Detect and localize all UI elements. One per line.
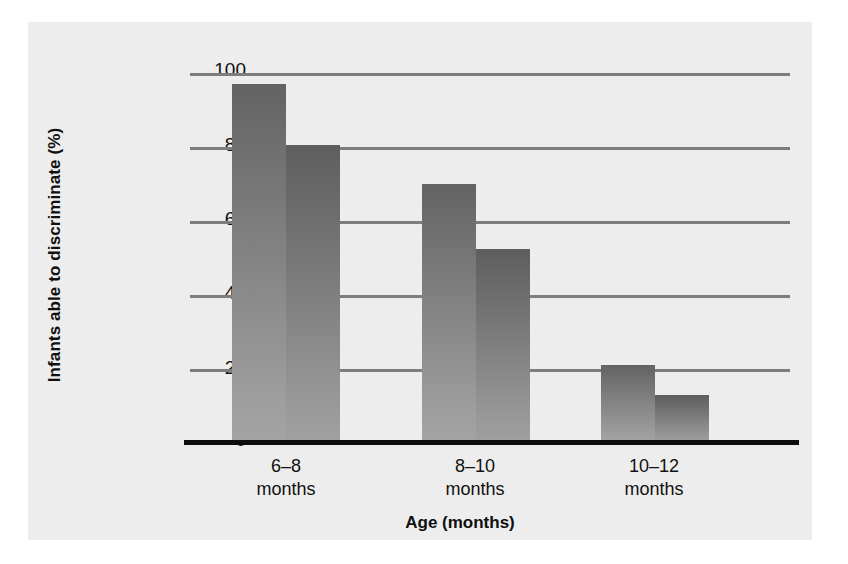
bar-6-8-months-series-2: [286, 145, 340, 443]
bar-8-10-months-series-2: [476, 249, 530, 443]
x-tick-unit-10-12: months: [554, 478, 754, 501]
y-axis-title: Infants able to discriminate (%): [45, 90, 65, 420]
x-tick-unit-6-8: months: [186, 478, 386, 501]
x-tick-range-10-12: 10–12: [554, 455, 754, 478]
bar-8-10-months-series-1: [422, 184, 476, 443]
x-tick-range-6-8: 6–8: [186, 455, 386, 478]
x-axis-line: [184, 440, 799, 445]
chart-figure: Infants able to discriminate (%) 100 80 …: [0, 0, 848, 564]
x-tick-label-6-8-months: 6–8 months: [186, 455, 386, 500]
x-tick-range-8-10: 8–10: [375, 455, 575, 478]
x-tick-label-8-10-months: 8–10 months: [375, 455, 575, 500]
bar-6-8-months-series-1: [232, 84, 286, 443]
bar-10-12-months-series-2: [655, 395, 709, 443]
bar-10-12-months-series-1: [601, 365, 655, 443]
gridline-100: [190, 73, 790, 76]
x-tick-label-10-12-months: 10–12 months: [554, 455, 754, 500]
x-axis-title: Age (months): [150, 513, 770, 533]
plot-area: [190, 73, 790, 443]
x-tick-unit-8-10: months: [375, 478, 575, 501]
